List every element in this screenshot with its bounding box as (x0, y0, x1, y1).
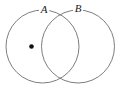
figure-background (0, 0, 122, 88)
circle-a-label: A (40, 3, 48, 15)
point-marker-in-a (29, 44, 34, 49)
venn-diagram-figure: A B (0, 0, 122, 88)
diagram-canvas: A B (0, 0, 122, 88)
circle-b-label: B (75, 2, 82, 14)
